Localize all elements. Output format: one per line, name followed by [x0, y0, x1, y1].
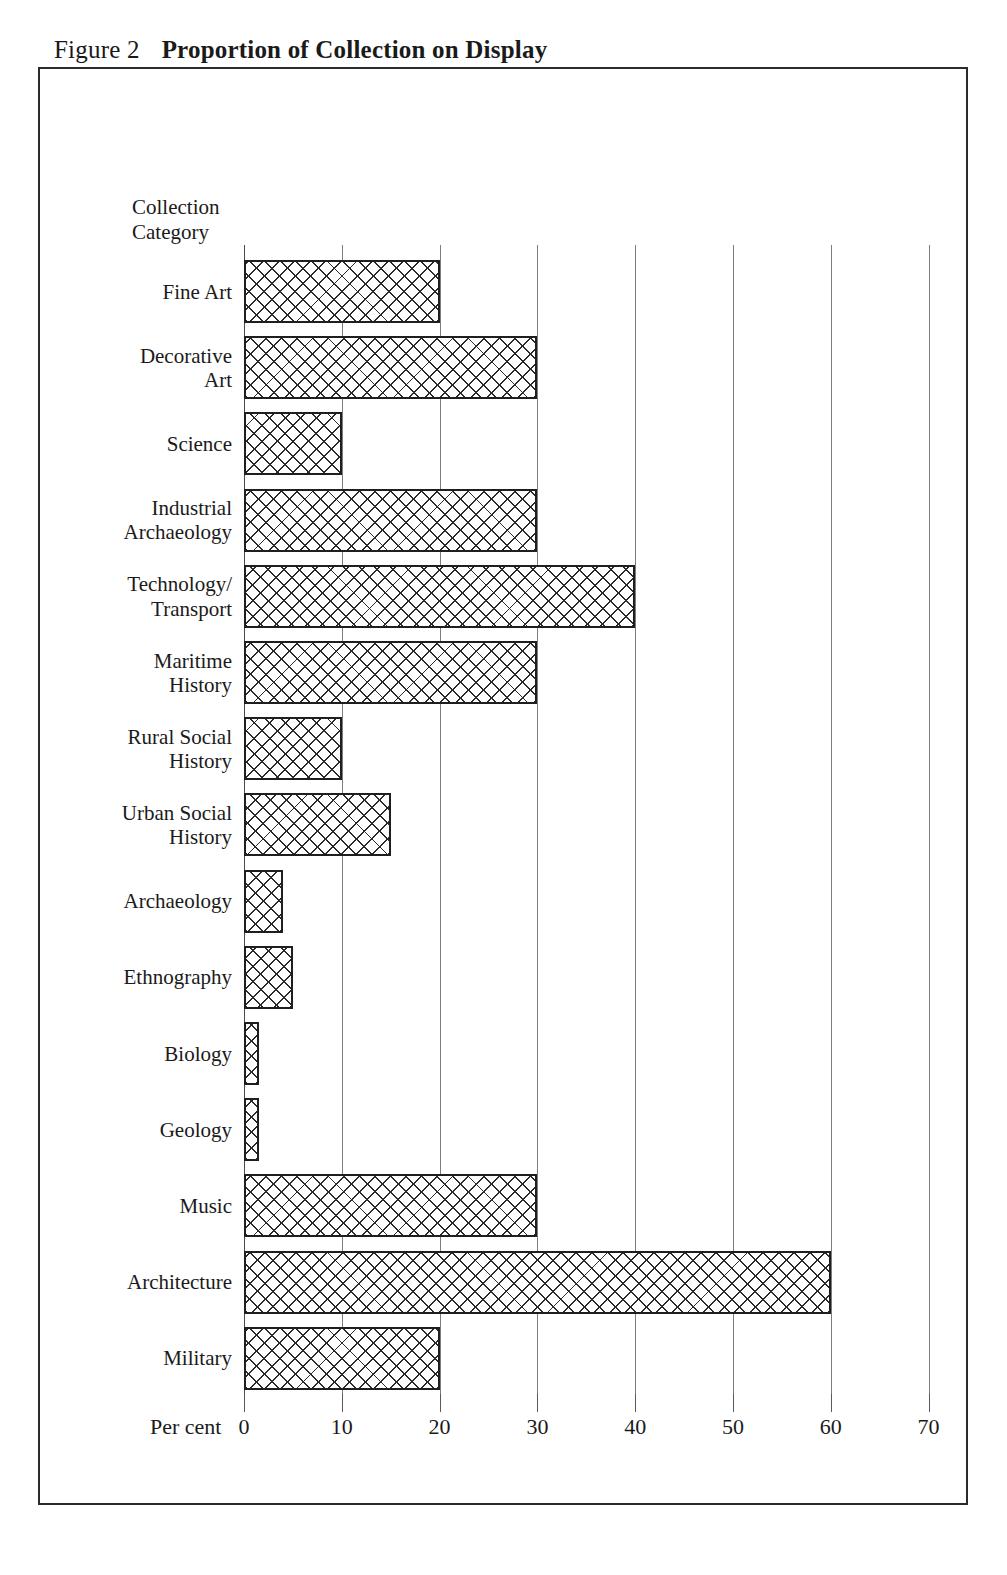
x-tick-label-60: 60	[801, 1414, 861, 1440]
x-tick-label-50: 50	[703, 1414, 763, 1440]
figure-frame: Collection Category 010203040506070Fine …	[38, 67, 968, 1505]
bar-row: Ethnography	[40, 946, 970, 1009]
bar-technology-transport	[244, 565, 635, 628]
bar-row: Urban Social History	[40, 793, 970, 856]
category-label-industrial-archaeology: Industrial Archaeology	[0, 496, 232, 545]
x-tick-30	[537, 1394, 538, 1412]
bar-decorative-art	[244, 336, 537, 399]
bar-rural-social-history	[244, 717, 342, 780]
x-tick-label-10: 10	[312, 1414, 372, 1440]
x-tick-label-70: 70	[899, 1414, 959, 1440]
category-label-decorative-art: Decorative Art	[0, 343, 232, 392]
bar-architecture	[244, 1251, 831, 1314]
bar-science	[244, 412, 342, 475]
x-tick-60	[831, 1394, 832, 1412]
bar-row: Architecture	[40, 1251, 970, 1314]
bar-urban-social-history	[244, 793, 391, 856]
bar-industrial-archaeology	[244, 489, 537, 552]
bar-chart-plot-area: 010203040506070Fine ArtDecorative ArtSci…	[40, 69, 970, 1507]
bar-row: Archaeology	[40, 870, 970, 933]
x-tick-70	[929, 1394, 930, 1412]
x-tick-0	[244, 1394, 245, 1412]
x-axis-title: Per cent	[150, 1414, 221, 1440]
figure-title: Proportion of Collection on Display	[162, 36, 548, 63]
x-tick-50	[733, 1394, 734, 1412]
x-tick-40	[635, 1394, 636, 1412]
category-label-geology: Geology	[0, 1118, 232, 1142]
bar-row: Fine Art	[40, 260, 970, 323]
bar-row: Maritime History	[40, 641, 970, 704]
category-label-biology: Biology	[0, 1041, 232, 1065]
category-label-science: Science	[0, 432, 232, 456]
x-tick-label-0: 0	[214, 1414, 274, 1440]
category-label-archaeology: Archaeology	[0, 889, 232, 913]
x-tick-10	[342, 1394, 343, 1412]
bar-fine-art	[244, 260, 440, 323]
figure-caption: Figure 2Proportion of Collection on Disp…	[54, 36, 547, 64]
bar-row: Technology/ Transport	[40, 565, 970, 628]
x-tick-label-40: 40	[605, 1414, 665, 1440]
category-label-rural-social-history: Rural Social History	[0, 724, 232, 773]
bar-ethnography	[244, 946, 293, 1009]
category-label-urban-social-history: Urban Social History	[0, 801, 232, 850]
bar-archaeology	[244, 870, 283, 933]
bar-military	[244, 1327, 440, 1390]
category-label-technology-transport: Technology/ Transport	[0, 572, 232, 621]
category-label-maritime-history: Maritime History	[0, 648, 232, 697]
category-label-military: Military	[0, 1346, 232, 1370]
figure-number: Figure 2	[54, 36, 140, 63]
bar-row: Science	[40, 412, 970, 475]
x-tick-label-30: 30	[507, 1414, 567, 1440]
bar-maritime-history	[244, 641, 537, 704]
x-tick-20	[440, 1394, 441, 1412]
bar-row: Decorative Art	[40, 336, 970, 399]
category-label-fine-art: Fine Art	[0, 279, 232, 303]
bar-row: Biology	[40, 1022, 970, 1085]
bar-row: Military	[40, 1327, 970, 1390]
bar-row: Music	[40, 1174, 970, 1237]
bar-row: Geology	[40, 1098, 970, 1161]
category-label-architecture: Architecture	[0, 1270, 232, 1294]
bar-geology	[244, 1098, 259, 1161]
bar-biology	[244, 1022, 259, 1085]
bar-row: Rural Social History	[40, 717, 970, 780]
bar-music	[244, 1174, 537, 1237]
category-label-ethnography: Ethnography	[0, 965, 232, 989]
bar-row: Industrial Archaeology	[40, 489, 970, 552]
category-label-music: Music	[0, 1194, 232, 1218]
x-tick-label-20: 20	[410, 1414, 470, 1440]
